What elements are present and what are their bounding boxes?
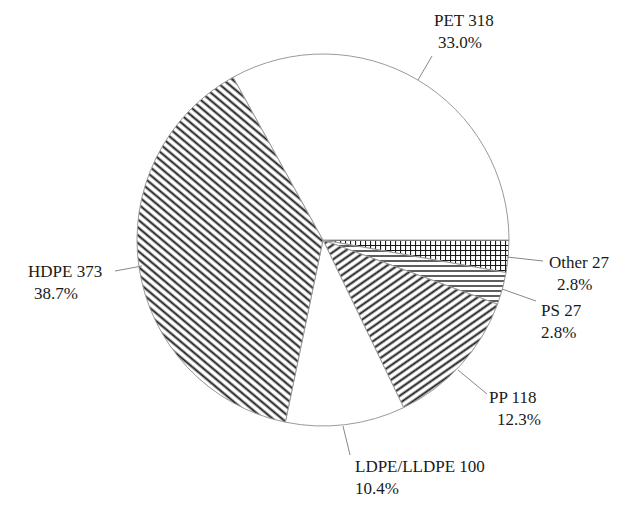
label-ldpe-pct: 10.4% (355, 478, 485, 500)
leader-hdpe (115, 266, 142, 271)
leader-pet (418, 56, 432, 80)
label-ps: PS 27 2.8% (541, 300, 581, 344)
label-ldpe-name: LDPE/LLDPE 100 (355, 456, 485, 478)
label-other-name: Other 27 (549, 252, 609, 274)
label-pp-name: PP 118 (489, 387, 541, 409)
leader-ps (502, 289, 536, 301)
label-pet-pct: 33.0% (438, 32, 494, 54)
label-ldpe: LDPE/LLDPE 100 10.4% (355, 456, 485, 500)
label-hdpe: HDPE 373 38.7% (28, 261, 102, 305)
label-other-pct: 2.8% (557, 274, 609, 296)
label-pet: PET 318 33.0% (434, 10, 494, 54)
label-ps-pct: 2.8% (541, 322, 581, 344)
label-hdpe-pct: 38.7% (34, 283, 102, 305)
leader-other (507, 257, 543, 261)
label-other: Other 27 2.8% (549, 252, 609, 296)
leader-pp (458, 370, 487, 394)
leader-ldpe (343, 426, 350, 455)
label-ps-name: PS 27 (541, 300, 581, 322)
label-hdpe-name: HDPE 373 (28, 261, 102, 283)
label-pet-name: PET 318 (434, 10, 494, 32)
label-pp-pct: 12.3% (497, 409, 541, 431)
label-pp: PP 118 12.3% (489, 387, 541, 431)
pie-slices (137, 54, 509, 426)
